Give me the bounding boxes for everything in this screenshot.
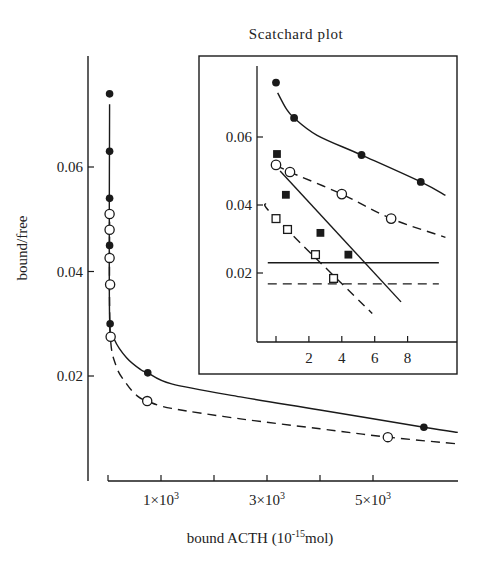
open-circle-marker [106,332,115,341]
filled-circle-marker [417,178,425,186]
figure: 0.020.040.06 1×1033×1035×103 bound/free … [0,0,481,569]
filled-square-marker [317,229,325,237]
open-circle-marker [271,160,280,169]
filled-circle-marker [106,195,114,203]
filled-circle-marker [290,114,298,122]
filled-circle-marker [106,148,114,156]
filled-circle-marker [358,151,366,159]
main-x-ticks: 1×1033×1035×103 [108,475,391,508]
open-square-marker [312,251,320,259]
x-tick-label: 1×103 [143,490,179,508]
x-tick-label: 3×103 [249,490,285,508]
filled-circle-marker [420,423,428,431]
x-tick-label: 8 [404,350,412,366]
x-tick-label: 5×103 [355,490,391,508]
y-axis-label: bound/free [14,215,30,280]
open-circle-marker [105,225,114,234]
open-circle-marker [105,209,114,218]
filled-circle-marker [272,79,280,87]
filled-square-marker [273,150,281,158]
filled-square-marker [282,191,290,199]
y-tick-label: 0.02 [57,368,83,384]
filled-circle-marker [106,90,114,98]
inset-plot: Scatchard plot 0.020.040.06 2468 [199,26,457,374]
x-tick-label: 4 [338,350,346,366]
y-tick-label: 0.04 [57,264,84,280]
y-tick-label: 0.06 [57,159,84,175]
open-circle-marker [386,214,395,223]
x-tick-label: 6 [371,350,379,366]
filled-square-marker [344,251,352,259]
open-square-marker [330,275,338,283]
filled-circle-marker [106,320,114,328]
filled-circle-marker [144,369,152,377]
inset-title: Scatchard plot [249,26,344,42]
y-tick-label: 0.04 [226,197,253,213]
open-square-marker [272,215,280,223]
open-circle-marker [106,280,115,289]
open-circle-marker [337,189,346,198]
inset-frame [199,56,457,374]
open-circle-marker [105,253,114,262]
open-circle-marker [285,167,294,176]
open-square-marker [284,226,292,234]
open-circle-marker [383,433,392,442]
open-circle-marker [143,396,152,405]
x-axis-label: bound ACTH (10-15mol) [187,528,334,547]
x-tick-label: 2 [305,350,313,366]
y-tick-label: 0.02 [226,265,252,281]
y-tick-label: 0.06 [226,129,253,145]
